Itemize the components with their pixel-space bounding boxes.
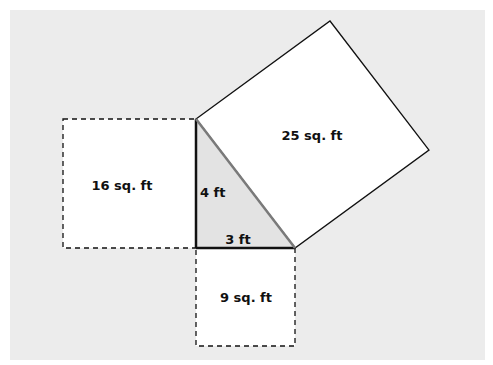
pythagorean-diagram: 16 sq. ft 9 sq. ft 25 sq. ft 4 ft 3 ft <box>0 0 493 365</box>
bottom-square-label: 9 sq. ft <box>220 290 272 305</box>
vertical-leg-label: 4 ft <box>200 185 225 200</box>
left-square-label: 16 sq. ft <box>92 178 153 193</box>
hypotenuse-square-label: 25 sq. ft <box>282 128 343 143</box>
horizontal-leg-label: 3 ft <box>225 232 250 247</box>
